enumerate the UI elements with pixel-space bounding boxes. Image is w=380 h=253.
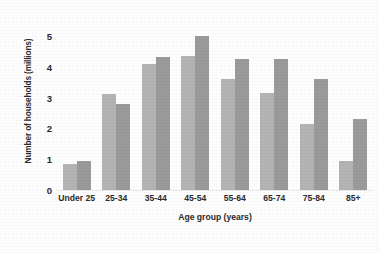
- x-tick-label: 55-64: [224, 193, 246, 203]
- y-tick-label: 1: [30, 154, 52, 165]
- x-tick-label: Under 25: [58, 193, 95, 203]
- x-tick-label: 25-34: [105, 193, 127, 203]
- bar-chart-figure: Number of households (millions) 012345 U…: [0, 0, 380, 253]
- bar-group: [57, 22, 97, 190]
- bar: [63, 164, 77, 190]
- bar-group: [136, 22, 176, 190]
- bar-group: [334, 22, 374, 190]
- y-tick-label: 3: [30, 92, 52, 103]
- bar: [339, 161, 353, 190]
- x-axis-title: Age group (years): [57, 212, 373, 222]
- bar-group: [215, 22, 255, 190]
- bar: [195, 36, 209, 190]
- bar: [77, 161, 91, 190]
- x-tick-label: 85+: [346, 193, 361, 203]
- bar-group: [294, 22, 334, 190]
- bar: [235, 59, 249, 190]
- x-tick-label: 45-54: [184, 193, 206, 203]
- bar: [221, 79, 235, 190]
- x-tick-label: 65-74: [263, 193, 285, 203]
- x-axis-tick-labels: Under 2525-3435-4445-5455-6465-7475-8485…: [57, 193, 373, 207]
- bar: [102, 94, 116, 190]
- bar: [142, 64, 156, 190]
- y-tick-label: 0: [30, 185, 52, 196]
- bar: [260, 93, 274, 190]
- y-axis-tick-labels: 012345: [30, 0, 52, 253]
- bar: [116, 104, 130, 190]
- bar: [314, 79, 328, 190]
- bar-group: [176, 22, 216, 190]
- x-axis-line: [57, 190, 373, 191]
- plot-area: [57, 22, 373, 190]
- bar-group: [97, 22, 137, 190]
- y-tick-label: 2: [30, 123, 52, 134]
- bar-group: [255, 22, 295, 190]
- bar: [274, 59, 288, 190]
- bar: [156, 57, 170, 190]
- y-tick-label: 5: [30, 30, 52, 41]
- y-tick-label: 4: [30, 61, 52, 72]
- bar: [181, 56, 195, 190]
- bar: [300, 124, 314, 190]
- x-tick-label: 75-84: [303, 193, 325, 203]
- bar: [353, 119, 367, 190]
- x-tick-label: 35-44: [145, 193, 167, 203]
